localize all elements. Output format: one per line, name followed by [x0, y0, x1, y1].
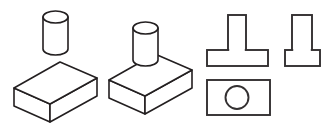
exploded-block — [14, 62, 97, 122]
assembled-cylinder-top-ellipse — [133, 22, 158, 34]
side-view-base — [285, 50, 320, 66]
front-view — [207, 15, 268, 66]
side-view-stem — [292, 15, 312, 50]
cylinder-top-ellipse — [43, 11, 68, 23]
exploded-assembly-group — [14, 11, 97, 122]
front-view-stem — [228, 15, 246, 50]
side-view — [285, 15, 320, 66]
top-view — [207, 80, 270, 115]
orthographic-views-group — [207, 15, 320, 115]
assembled-cylinder — [133, 22, 158, 66]
top-view-circle — [226, 86, 249, 109]
assembled-part-group — [109, 22, 192, 114]
technical-drawing-canvas — [0, 0, 330, 131]
front-view-base — [207, 50, 268, 66]
exploded-cylinder — [43, 11, 68, 55]
